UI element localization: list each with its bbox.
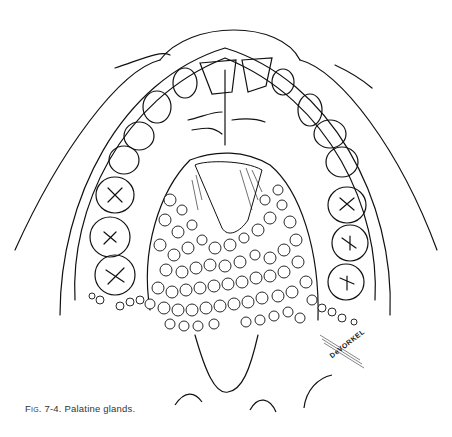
figure-caption-text: Palatine glands. (65, 403, 136, 414)
figure: DeVORKEL Fig. 7-4. Palatine glands. (0, 0, 452, 437)
palate-illustration (0, 0, 452, 437)
figure-label: Fig. 7-4. (25, 403, 62, 414)
figure-caption: Fig. 7-4. Palatine glands. (25, 403, 135, 414)
